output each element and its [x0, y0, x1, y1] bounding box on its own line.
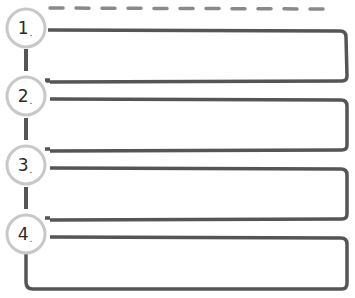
- step-number-2-suffix: .: [29, 96, 32, 106]
- step-number-4-digit: 4: [18, 224, 29, 244]
- step-number-2: 2.: [5, 76, 45, 116]
- step-box-2-outline: [46, 81, 347, 151]
- step-number-3: 3.: [5, 145, 45, 185]
- step-number-3-digit: 3: [18, 155, 29, 175]
- step-number-2-digit: 2: [18, 86, 29, 106]
- step-number-1: 1.: [5, 8, 45, 48]
- step-box-3: [45, 149, 347, 220]
- step-number-4-suffix: .: [29, 234, 32, 244]
- step-box-4: [26, 218, 347, 289]
- dashed-header-line: [50, 8, 326, 9]
- step-number-1-suffix: .: [29, 28, 32, 38]
- step-number-4: 4.: [5, 214, 45, 254]
- step-box-1: [48, 30, 347, 82]
- step-number-1-digit: 1: [18, 18, 29, 38]
- diagram-canvas: [0, 0, 355, 298]
- step-number-3-suffix: .: [29, 165, 32, 175]
